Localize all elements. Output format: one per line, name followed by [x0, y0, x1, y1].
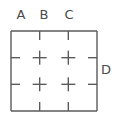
column-label-a: A	[17, 7, 26, 22]
top-axis-labels: ABC	[17, 7, 74, 22]
column-label-c: C	[64, 7, 73, 22]
right-axis-labels: D	[101, 62, 111, 77]
grid-diagram-figure: ABC D	[0, 0, 121, 124]
side-label-d: D	[101, 62, 111, 77]
grid-diagram-canvas: ABC D	[0, 0, 121, 124]
column-label-b: B	[40, 7, 49, 22]
